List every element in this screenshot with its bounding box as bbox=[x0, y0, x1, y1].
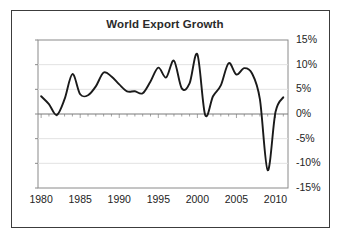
x-axis-tick-label: 2005 bbox=[219, 193, 253, 205]
y-axis-tick-label: 0% bbox=[296, 107, 311, 119]
y-axis-tick-label: 15% bbox=[296, 33, 317, 45]
x-axis-tick-label: 1995 bbox=[141, 193, 175, 205]
x-axis-tick-label: 2010 bbox=[259, 193, 293, 205]
x-axis-tick-label: 1980 bbox=[24, 193, 58, 205]
x-axis-tick-label: 1990 bbox=[102, 193, 136, 205]
y-axis-tick-label: 5% bbox=[296, 82, 311, 94]
x-axis-tick-label: 2000 bbox=[180, 193, 214, 205]
x-axis-tick-label: 1985 bbox=[63, 193, 97, 205]
y-axis-tick-label: -15% bbox=[296, 181, 321, 193]
chart-figure: World Export Growth 15%10%5%0%-5%-10%-15… bbox=[0, 0, 341, 238]
y-axis-tick-label: -10% bbox=[296, 156, 321, 168]
y-axis-tick-label: -5% bbox=[296, 132, 315, 144]
y-axis-tick-label: 10% bbox=[296, 58, 317, 70]
